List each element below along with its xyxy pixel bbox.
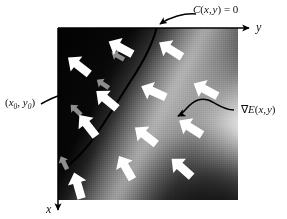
x-axis-label: x [46, 203, 51, 215]
contour-label-var1: x [204, 3, 209, 15]
contour-leader-line [160, 14, 196, 24]
gradient-label-var1: x [258, 103, 263, 115]
contour-label-symbol: C [193, 3, 200, 15]
contour-label-value: 0 [233, 3, 239, 15]
nabla-icon: ∇ [241, 103, 248, 115]
start-point-label: (x0, y0) [5, 97, 35, 111]
start-point-close-paren: ) [31, 96, 35, 108]
contour-label: C(x, y) = 0 [193, 4, 238, 15]
gradient-label: ∇E(x, y) [241, 104, 276, 115]
gradient-leader-line [178, 99, 234, 116]
contour-label-var2: y [213, 3, 218, 15]
gradient-label-var2: y [267, 103, 272, 115]
gradient-field-figure: y x C(x, y) = 0 (x0, y0) ∇E(x, y) [0, 0, 287, 219]
y-axis-label: y [256, 21, 261, 33]
gradient-label-symbol: E [248, 103, 255, 115]
